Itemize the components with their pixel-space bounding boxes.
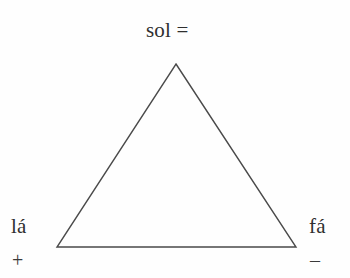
bottom-left-plus-sign: + xyxy=(12,250,23,270)
bottom-right-label-fa: fá xyxy=(309,216,326,237)
bottom-left-label-la: lá xyxy=(11,216,27,237)
apex-label-sol: sol = xyxy=(146,20,189,41)
solfege-triangle-figure: sol = lá fá + – xyxy=(0,0,350,278)
bottom-right-minus-sign: – xyxy=(310,250,320,270)
triangle-outline xyxy=(57,64,296,247)
